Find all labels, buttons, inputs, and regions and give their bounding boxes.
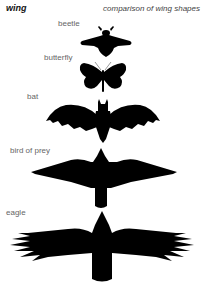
page-subtitle: comparison of wing shapes: [103, 4, 200, 13]
beetle-icon: [78, 26, 134, 58]
bat-label: bat: [27, 92, 38, 101]
bird-of-prey-icon: [31, 148, 177, 210]
eagle-icon: [8, 211, 198, 283]
butterfly-label: butterfly: [44, 53, 72, 62]
beetle-label: beetle: [58, 19, 80, 28]
butterfly-icon: [78, 60, 128, 94]
bat-icon: [44, 99, 162, 143]
page-title: wing: [6, 3, 27, 13]
